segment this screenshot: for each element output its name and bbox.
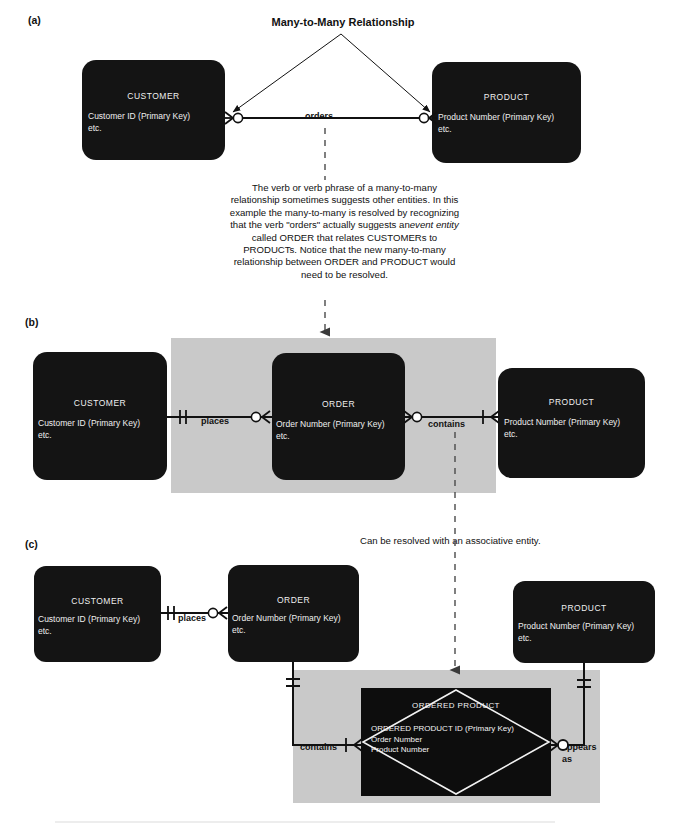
relationship-label-contains-c: contains (298, 742, 339, 752)
entity-customer-b[interactable]: CUSTOMER Customer ID (Primary Key) etc. (33, 352, 167, 480)
panel-label-b: (b) (25, 316, 38, 328)
entity-attr-primary-key: Customer ID (Primary Key) (88, 111, 221, 123)
cardinality-one-one-customer-c (168, 606, 174, 620)
panel-label-c: (c) (25, 538, 38, 550)
note-line-4-text: that the verb "orders" actually suggests… (230, 219, 410, 230)
entity-title: PRODUCT (498, 397, 645, 407)
assoc-attr-order-number: Order Number (371, 735, 514, 746)
entity-attr-etc: etc. (518, 633, 651, 645)
entity-attr-primary-key: Customer ID (Primary Key) (38, 614, 157, 626)
entity-attr-etc: etc. (88, 123, 221, 135)
entity-title: ORDER (228, 595, 359, 605)
figure-title: Many-to-Many Relationship (228, 16, 458, 28)
entity-attributes: Order Number (Primary Key) etc. (232, 613, 355, 636)
explanatory-note: The verb or verb phrase of a many-to-man… (178, 182, 511, 281)
entity-attr-primary-key: Product Number (Primary Key) (518, 621, 651, 633)
entity-customer-c[interactable]: CUSTOMER Customer ID (Primary Key) etc. (34, 566, 161, 662)
relationship-label-places-b: places (199, 416, 231, 426)
cardinality-many-optional-left-a (225, 112, 243, 124)
entity-attributes: Customer ID (Primary Key) etc. (38, 418, 163, 441)
entity-attr-etc: etc. (276, 431, 401, 443)
note-line-5: called ORDER that relates CUSTOMERs to (178, 232, 511, 244)
relationship-label-appears-c: appears (560, 742, 599, 752)
entity-title: ORDER (272, 399, 405, 409)
note-line-4: that the verb "orders" actually suggests… (178, 219, 511, 231)
page-footer-artifact (55, 821, 555, 823)
panel-label-a: (a) (28, 14, 41, 26)
entity-attributes: Customer ID (Primary Key) etc. (88, 111, 221, 134)
entity-attr-etc: etc. (232, 625, 355, 637)
note-line-8: need to be resolved. (178, 269, 511, 281)
assoc-attr-product-number: Product Number (371, 745, 514, 756)
entity-attributes: Order Number (Primary Key) etc. (276, 419, 401, 442)
assoc-attr-primary-key: ORDERED PRODUCT ID (Primary Key) (371, 724, 514, 735)
entity-product-a[interactable]: PRODUCT Product Number (Primary Key) etc… (432, 62, 581, 163)
entity-attr-etc: etc. (38, 626, 157, 638)
note-line-6: PRODUCTs. Notice that the new many-to-ma… (178, 244, 511, 256)
entity-attributes: Product Number (Primary Key) etc. (438, 112, 577, 135)
entity-attr-etc: etc. (38, 430, 163, 442)
associative-entity-ordered-product[interactable]: ORDERED PRODUCT ORDERED PRODUCT ID (Prim… (361, 688, 551, 796)
relationship-label-as-c: as (560, 754, 574, 764)
entity-product-b[interactable]: PRODUCT Product Number (Primary Key) etc… (498, 368, 645, 478)
entity-attr-primary-key: Order Number (Primary Key) (232, 613, 355, 625)
note-emphasis-event-entity: event entity (410, 219, 459, 230)
entity-attr-primary-key: Customer ID (Primary Key) (38, 418, 163, 430)
figure-canvas: (a) Many-to-Many Relationship CUSTOMER C… (0, 0, 685, 828)
entity-product-c[interactable]: PRODUCT Product Number (Primary Key) etc… (513, 581, 655, 663)
entity-attributes: Product Number (Primary Key) etc. (504, 417, 641, 440)
associative-entity-attributes: ORDERED PRODUCT ID (Primary Key) Order N… (371, 724, 514, 756)
associative-entity-title: ORDERED PRODUCT (361, 701, 551, 710)
entity-attr-etc: etc. (504, 429, 641, 441)
relationship-label-places-c: places (176, 613, 208, 623)
entity-attr-primary-key: Product Number (Primary Key) (504, 417, 641, 429)
entity-title: CUSTOMER (33, 398, 167, 408)
entity-attr-etc: etc. (438, 124, 577, 136)
entity-title: PRODUCT (513, 603, 655, 613)
entity-order-c[interactable]: ORDER Order Number (Primary Key) etc. (228, 565, 359, 662)
entity-attributes: Customer ID (Primary Key) etc. (38, 614, 157, 637)
title-pointer-left (233, 34, 341, 112)
note-line-3: example the many-to-many is resolved by … (178, 207, 511, 219)
entity-attr-primary-key: Order Number (Primary Key) (276, 419, 401, 431)
entity-title: CUSTOMER (34, 596, 161, 606)
entity-attributes: Product Number (Primary Key) etc. (518, 621, 651, 644)
entity-customer-a[interactable]: CUSTOMER Customer ID (Primary Key) etc. (82, 60, 225, 160)
entity-title: CUSTOMER (82, 91, 225, 101)
title-pointer-right (341, 34, 430, 112)
cardinality-many-optional-order-c-left (208, 607, 227, 619)
entity-title: PRODUCT (432, 92, 581, 102)
note-line-2: relationship sometimes suggests other en… (178, 194, 511, 206)
entity-order-b[interactable]: ORDER Order Number (Primary Key) etc. (272, 353, 405, 480)
note-line-7: relationship between ORDER and PRODUCT w… (178, 256, 511, 268)
entity-attr-primary-key: Product Number (Primary Key) (438, 112, 577, 124)
relationship-label-orders: orders (303, 111, 335, 121)
note-line-1: The verb or verb phrase of a many-to-man… (178, 182, 511, 194)
panel-c-caption: Can be resolved with an associative enti… (360, 535, 541, 546)
relationship-label-contains-b: contains (426, 419, 467, 429)
